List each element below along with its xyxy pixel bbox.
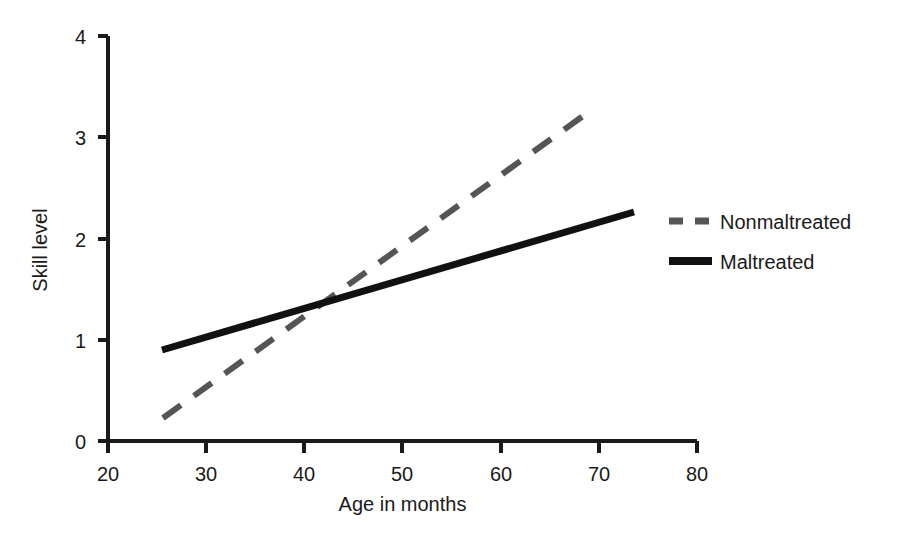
y-tick-label-0: 0 xyxy=(46,432,86,452)
y-axis-title: Skill level xyxy=(30,180,50,320)
series-line-nonmaltreated xyxy=(163,111,590,418)
x-tick-label-50: 50 xyxy=(372,464,432,484)
legend-label-nonmaltreated: Nonmaltreated xyxy=(720,212,851,232)
y-tick-label-4: 4 xyxy=(46,27,86,47)
legend-label-maltreated: Maltreated xyxy=(720,252,815,272)
x-tick-label-20: 20 xyxy=(78,464,138,484)
y-tick-label-3: 3 xyxy=(46,128,86,148)
series-line-maltreated xyxy=(162,212,634,350)
chart-figure: 4 3 2 1 0 20 30 40 50 60 70 80 Age in mo… xyxy=(0,0,903,551)
x-tick-label-40: 40 xyxy=(274,464,334,484)
x-tick-label-30: 30 xyxy=(176,464,236,484)
x-tick-label-60: 60 xyxy=(471,464,531,484)
x-tick-label-80: 80 xyxy=(667,464,727,484)
x-axis-title: Age in months xyxy=(0,494,805,514)
x-axis-ticks xyxy=(108,441,697,453)
y-tick-label-1: 1 xyxy=(46,331,86,351)
x-tick-label-70: 70 xyxy=(569,464,629,484)
y-tick-label-2: 2 xyxy=(46,230,86,250)
